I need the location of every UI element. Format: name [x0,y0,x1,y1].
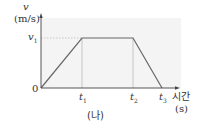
plot-background [41,18,181,88]
x-axis-label: 시간 [172,92,190,102]
t3-label: t3 [159,92,167,106]
t2-label: t2 [130,92,138,106]
figure-caption: (나) [87,111,104,121]
v1-label: v1 [28,32,37,46]
t1-label: t1 [79,92,87,106]
y-axis-unit: (m/s) [14,14,40,24]
x-axis-unit: (s) [175,104,188,114]
y-axis-label: v [23,2,29,12]
origin-label: 0 [32,84,38,94]
